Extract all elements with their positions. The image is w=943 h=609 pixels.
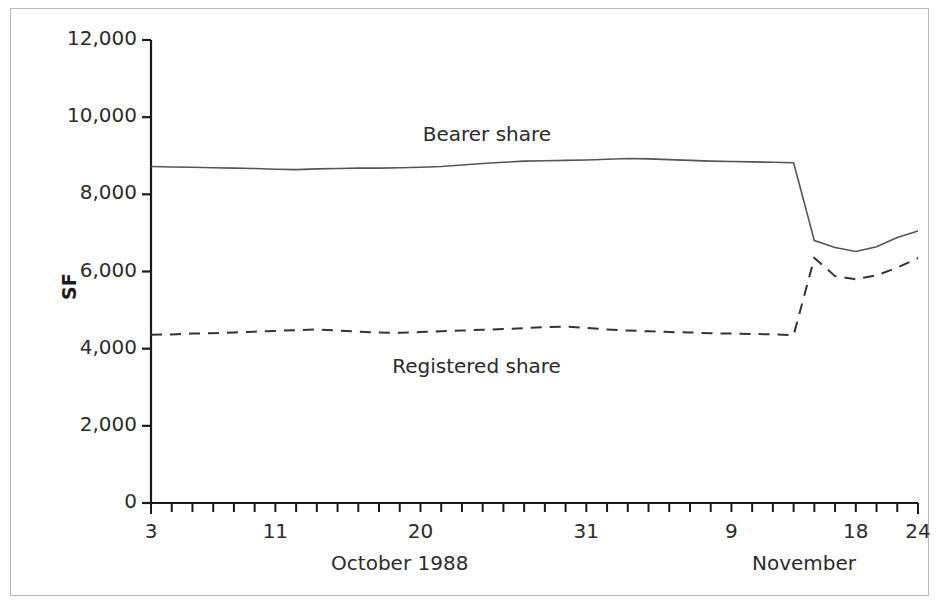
x-tick-label: 9: [691, 519, 771, 543]
data-series-group: [151, 158, 918, 335]
y-tick-label: 8,000: [80, 180, 137, 204]
y-tick-label: 10,000: [67, 103, 137, 127]
y-tick-label: 6,000: [80, 258, 137, 282]
chart-figure: 02,0004,0006,0008,00010,00012,000 311203…: [0, 0, 943, 609]
y-tick-label: 4,000: [80, 335, 137, 359]
y-axis-ticks: [142, 40, 151, 503]
x-tick-label: 11: [235, 519, 315, 543]
bearer-share-annotation: Bearer share: [387, 122, 587, 146]
x-tick-label: 3: [111, 519, 191, 543]
x-period-label: November: [694, 551, 914, 575]
x-axis-ticks: [151, 503, 918, 514]
y-tick-label: 2,000: [80, 412, 137, 436]
registered-share-annotation: Registered share: [377, 354, 577, 378]
x-tick-label: 31: [546, 519, 626, 543]
y-axis-title: SF: [58, 273, 80, 300]
y-tick-label: 0: [124, 489, 137, 513]
x-tick-label: 24: [878, 519, 943, 543]
axis-lines: [151, 40, 918, 503]
series-line-bearer-share: [151, 158, 918, 251]
chart-canvas: [0, 0, 943, 609]
x-tick-label: 20: [380, 519, 460, 543]
series-line-registered-share: [151, 258, 918, 335]
y-tick-label: 12,000: [67, 26, 137, 50]
x-period-label: October 1988: [290, 551, 510, 575]
